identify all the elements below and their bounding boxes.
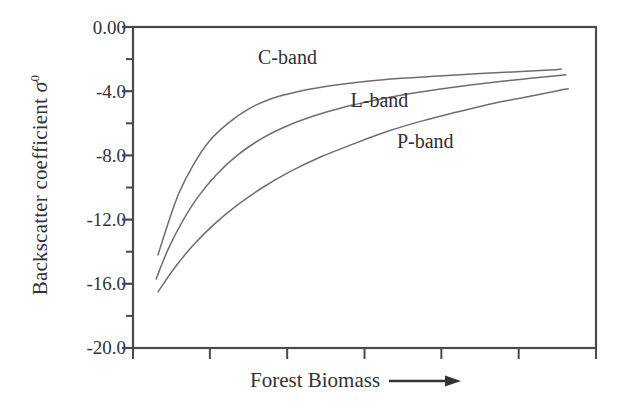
x-axis-title: Forest Biomass: [250, 368, 463, 393]
axis-frame: [133, 27, 596, 348]
right-arrow-icon: [389, 373, 463, 389]
curve-p-band: [158, 89, 568, 292]
x-axis-title-text: Forest Biomass: [250, 368, 380, 393]
figure-canvas: Backscatter coefficient σ0 0.00 -4.0 -8.…: [0, 0, 628, 417]
curve-label-p-band: P-band: [397, 130, 454, 153]
curve-label-c-band: C-band: [258, 46, 317, 69]
curve-label-l-band: L-band: [351, 89, 409, 112]
axis-ticks: [122, 27, 596, 359]
